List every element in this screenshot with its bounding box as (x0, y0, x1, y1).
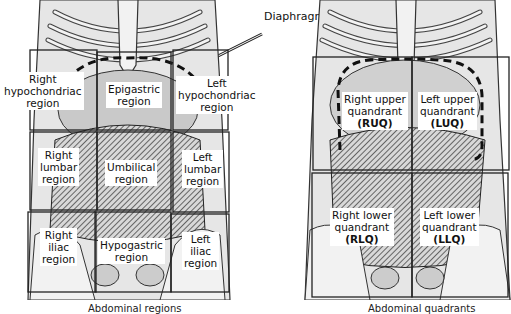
quadrant-label-llq: Left lower quandrant (LLQ) (420, 208, 479, 246)
region-label-left-iliac: Left iliac region (182, 232, 219, 270)
region-label-left-lumbar: Left lumbar region (182, 150, 223, 188)
region-label-right-lumbar: Right lumbar region (38, 148, 79, 186)
abdominal-regions-figure: Right hypochondriac region Epigastric re… (0, 0, 255, 300)
region-label-hypogastric: Hypogastric region (98, 238, 165, 264)
caption-regions: Abdominal regions (88, 303, 181, 314)
abdominal-quadrants-figure: Right upper quandrant (RUQ) Left upper q… (300, 0, 511, 300)
region-label-right-hypochondriac: Right hypochondriac region (2, 72, 84, 110)
quadrant-label-rlq: Right lower quandrant (RLQ) (330, 208, 394, 246)
region-label-umbilical: Umbilical region (105, 160, 157, 186)
region-label-right-iliac: Right iliac region (40, 228, 77, 266)
quadrant-label-ruq: Right upper quandrant (RUQ) (342, 92, 408, 130)
region-label-epigastric: Epigastric region (106, 82, 162, 108)
quadrant-label-luq: Left upper quandrant (LUQ) (418, 92, 477, 130)
region-label-left-hypochondriac: Left hypochondriac region (176, 76, 258, 114)
caption-quadrants: Abdominal quadrants (368, 303, 475, 314)
torso-illustration-quadrants (300, 0, 511, 300)
